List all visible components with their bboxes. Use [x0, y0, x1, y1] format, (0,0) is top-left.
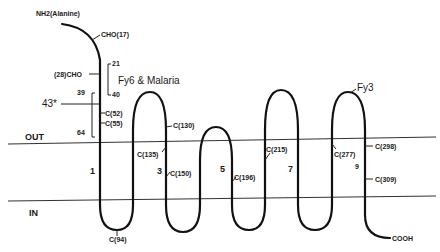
c55-label: C(55) — [105, 120, 123, 128]
polypeptide-chain — [62, 24, 390, 238]
fy3-label: Fy3 — [357, 82, 374, 93]
bracket-39-64 — [92, 93, 95, 137]
out-region-label: OUT — [25, 132, 45, 142]
helix-number-7: 7 — [288, 164, 293, 174]
c196-label: C(196) — [234, 174, 255, 182]
c309-label: C(309) — [375, 176, 396, 184]
n-terminus-label: NH2(Alanine) — [36, 10, 80, 18]
epitope-bracket-21-40 — [108, 64, 111, 95]
c135-label: C(135) — [137, 151, 158, 159]
cho17-tick — [92, 35, 100, 40]
helix-number-1: 1 — [90, 166, 95, 176]
cho17-label: CHO(17) — [101, 31, 129, 39]
helix-number-5: 5 — [220, 164, 225, 174]
c130-label: C(130) — [173, 122, 194, 130]
c94-label: C(94) — [109, 236, 127, 244]
fy6-malaria-label: Fy6 & Malaria — [118, 75, 180, 86]
helix-number-9: 9 — [355, 163, 359, 170]
membrane-outer-line — [8, 137, 436, 144]
c215-label: C(215) — [266, 146, 287, 154]
c52-label: C(52) — [105, 110, 123, 118]
c-terminus-label: COOH — [392, 235, 413, 242]
marker-43-label: 43* — [42, 98, 57, 109]
in-region-label: IN — [29, 208, 38, 218]
bracket-label-40: 40 — [112, 91, 120, 98]
c298-label: C(298) — [375, 143, 396, 151]
bracket-label-21: 21 — [112, 60, 120, 67]
membrane-topology-diagram: NH2(Alanine) CHO(17) (28)CHO 21 40 Fy6 &… — [0, 0, 440, 252]
cho28-label: (28)CHO — [54, 71, 83, 79]
c150-label: C(150) — [170, 170, 191, 178]
bracket-label-64: 64 — [77, 129, 85, 136]
helix-number-3: 3 — [157, 166, 162, 176]
c277-label: C(277) — [334, 151, 355, 159]
bracket-label-39: 39 — [77, 89, 85, 96]
membrane-inner-line — [8, 196, 436, 201]
